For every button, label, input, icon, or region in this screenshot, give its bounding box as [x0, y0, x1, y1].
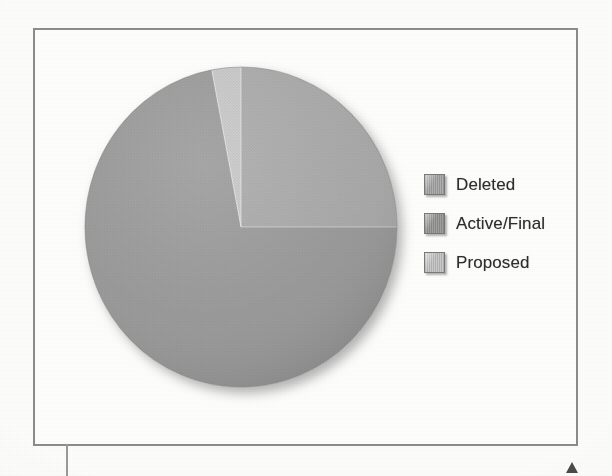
legend-item-proposed: Proposed [424, 250, 545, 274]
legend-swatch-active-final [424, 213, 445, 234]
triangle-marker-icon [566, 462, 578, 473]
legend-label-deleted: Deleted [456, 175, 515, 194]
legend-swatch-deleted [424, 174, 445, 195]
legend-item-deleted: Deleted [424, 172, 545, 196]
legend-label-active-final: Active/Final [456, 214, 545, 233]
legend-swatch-proposed [424, 252, 445, 273]
chart-legend: Deleted Active/Final Proposed [424, 172, 545, 274]
legend-item-active-final: Active/Final [424, 211, 545, 235]
legend-label-proposed: Proposed [456, 253, 530, 272]
page-rule-line [66, 444, 68, 476]
scanned-figure-page: Deleted Active/Final Proposed [0, 0, 612, 476]
